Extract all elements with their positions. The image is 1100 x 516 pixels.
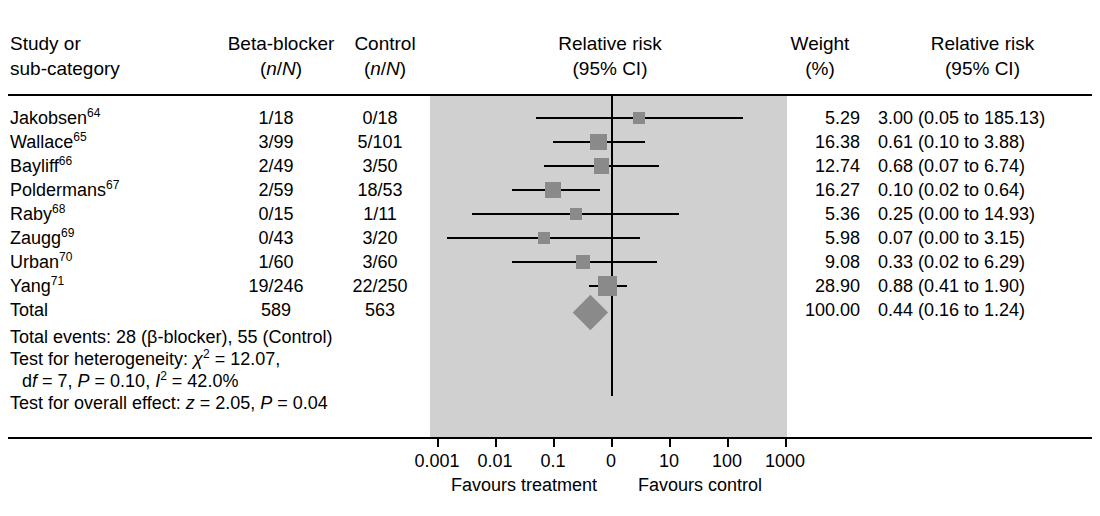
row-study-label: Poldermans67 xyxy=(10,179,119,201)
study-name: Urban xyxy=(10,252,59,272)
effect-size-marker xyxy=(590,134,606,150)
row-control-events: 1/11 xyxy=(320,203,440,225)
study-header-line1: Study or xyxy=(10,33,81,54)
axis-tick xyxy=(495,437,497,447)
axis-tick-label: 0 xyxy=(606,450,616,472)
row-beta-events: 1/60 xyxy=(216,251,336,273)
favours-control-label: Favours control xyxy=(638,474,762,496)
total-weight-value: 100.00 xyxy=(762,299,860,321)
axis-tick-label: 0.001 xyxy=(414,450,459,472)
row-weight-value: 12.74 xyxy=(762,155,860,177)
study-reference-number: 64 xyxy=(87,106,100,120)
row-control-events: 0/18 xyxy=(320,107,440,129)
row-study-label: Zaugg69 xyxy=(10,227,74,249)
row-study-label: Bayliff66 xyxy=(10,155,72,177)
total-control-total: 563 xyxy=(320,299,440,321)
row-weight-value: 5.36 xyxy=(762,203,860,225)
total-relative-risk-value: 0.44 (0.16 to 1.24) xyxy=(878,299,1025,321)
axis-tick xyxy=(437,437,439,447)
header-rule xyxy=(8,94,1092,96)
row-weight-value: 5.29 xyxy=(762,107,860,129)
row-beta-events: 0/15 xyxy=(216,203,336,225)
row-study-label: Yang71 xyxy=(10,275,64,297)
effect-size-marker xyxy=(576,255,590,269)
row-beta-events: 0/43 xyxy=(216,227,336,249)
study-reference-number: 68 xyxy=(52,202,65,216)
study-reference-number: 65 xyxy=(73,130,86,144)
row-beta-events: 1/18 xyxy=(216,107,336,129)
study-name: Yang xyxy=(10,276,51,296)
column-header-relative-risk-plot: Relative risk (95% CI) xyxy=(470,31,750,81)
row-control-events: 3/60 xyxy=(320,251,440,273)
study-name: Poldermans xyxy=(10,180,106,200)
control-header-line1: Control xyxy=(354,33,415,54)
row-control-events: 3/20 xyxy=(320,227,440,249)
axis-tick-label: 10 xyxy=(659,450,679,472)
study-reference-number: 71 xyxy=(51,274,64,288)
axis-tick-label: 0.1 xyxy=(540,450,565,472)
axis-tick-label: 0.01 xyxy=(477,450,512,472)
heterogeneity-text-line2: df = 7, P = 0.10, I2 = 42.0% xyxy=(10,370,238,392)
total-row-label: Total xyxy=(10,299,48,321)
axis-tick xyxy=(553,437,555,447)
study-name: Jakobsen xyxy=(10,108,87,128)
effect-size-marker xyxy=(545,182,561,198)
rr2-header-line2: (95% CI) xyxy=(870,56,1095,81)
forest-plot-figure: Study or sub-category Beta-blocker (n/N)… xyxy=(0,0,1100,516)
rr-header-line1: Relative risk xyxy=(558,33,661,54)
axis-tick-label: 1000 xyxy=(765,450,805,472)
column-header-study: Study or sub-category xyxy=(10,31,120,81)
row-beta-events: 19/246 xyxy=(216,275,336,297)
favours-treatment-label: Favours treatment xyxy=(451,474,597,496)
study-name: Raby xyxy=(10,204,52,224)
rr2-header-line1: Relative risk xyxy=(931,33,1034,54)
row-relative-risk-value: 0.33 (0.02 to 6.29) xyxy=(878,251,1025,273)
effect-size-marker xyxy=(594,158,609,173)
axis-tick-label: 100 xyxy=(712,450,742,472)
study-reference-number: 70 xyxy=(59,250,72,264)
axis-tick xyxy=(669,437,671,447)
row-relative-risk-value: 0.10 (0.02 to 0.64) xyxy=(878,179,1025,201)
row-study-label: Wallace65 xyxy=(10,131,87,153)
row-control-events: 18/53 xyxy=(320,179,440,201)
rr-header-line2: (95% CI) xyxy=(470,56,750,81)
weight-header-line1: Weight xyxy=(791,33,850,54)
column-header-control: Control (n/N) xyxy=(300,31,470,81)
control-header-line2: (n/N) xyxy=(300,56,470,81)
study-name: Zaugg xyxy=(10,228,61,248)
row-relative-risk-value: 0.88 (0.41 to 1.90) xyxy=(878,275,1025,297)
axis-rule xyxy=(8,437,1092,439)
row-study-label: Jakobsen64 xyxy=(10,107,100,129)
axis-tick xyxy=(611,437,613,447)
row-relative-risk-value: 3.00 (0.05 to 185.13) xyxy=(878,107,1045,129)
row-control-events: 22/250 xyxy=(320,275,440,297)
row-control-events: 5/101 xyxy=(320,131,440,153)
weight-header-line2: (%) xyxy=(760,56,880,81)
row-weight-value: 28.90 xyxy=(762,275,860,297)
row-weight-value: 16.27 xyxy=(762,179,860,201)
heterogeneity-text-line1: Test for heterogeneity: χ2 = 12.07, xyxy=(10,348,280,370)
effect-size-marker xyxy=(633,112,645,124)
row-relative-risk-value: 0.07 (0.00 to 3.15) xyxy=(878,227,1025,249)
row-beta-events: 2/49 xyxy=(216,155,336,177)
column-header-weight: Weight (%) xyxy=(760,31,880,81)
study-header-line2: sub-category xyxy=(10,56,120,81)
study-reference-number: 69 xyxy=(61,226,74,240)
row-weight-value: 16.38 xyxy=(762,131,860,153)
row-study-label: Raby68 xyxy=(10,203,65,225)
study-name: Bayliff xyxy=(10,156,59,176)
study-reference-number: 67 xyxy=(106,178,119,192)
study-reference-number: 66 xyxy=(59,154,72,168)
effect-size-marker xyxy=(538,232,551,245)
row-relative-risk-value: 0.68 (0.07 to 6.74) xyxy=(878,155,1025,177)
total-events-text: Total events: 28 (β-blocker), 55 (Contro… xyxy=(10,326,333,348)
plot-shaded-band xyxy=(430,96,787,438)
axis-tick xyxy=(727,437,729,447)
effect-size-marker xyxy=(598,276,617,295)
row-beta-events: 3/99 xyxy=(216,131,336,153)
overall-effect-text: Test for overall effect: z = 2.05, P = 0… xyxy=(10,392,328,414)
effect-size-marker xyxy=(570,208,582,220)
column-header-relative-risk-values: Relative risk (95% CI) xyxy=(870,31,1095,81)
row-beta-events: 2/59 xyxy=(216,179,336,201)
axis-tick xyxy=(785,437,787,447)
